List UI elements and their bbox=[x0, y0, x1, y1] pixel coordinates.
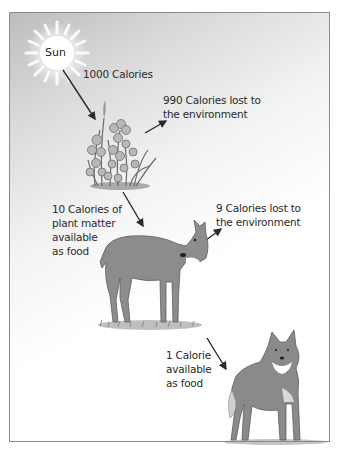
label-sun-to-plants: 1000 Calories bbox=[83, 67, 153, 81]
label-deer-lost: 9 Calories lost to the environment bbox=[216, 201, 301, 229]
label-plants-to-deer: 10 Calories of plant matter available as… bbox=[52, 202, 122, 258]
arrow-plants-lost bbox=[145, 121, 166, 133]
plants-icon bbox=[86, 100, 156, 190]
wolf-icon bbox=[223, 330, 327, 445]
label-plants-lost: 990 Calories lost to the environment bbox=[163, 93, 261, 121]
label-deer-to-wolf: 1 Calorie available as food bbox=[166, 348, 212, 390]
sun-label: Sun bbox=[45, 46, 66, 59]
arrow-plants-to-deer bbox=[123, 192, 143, 226]
